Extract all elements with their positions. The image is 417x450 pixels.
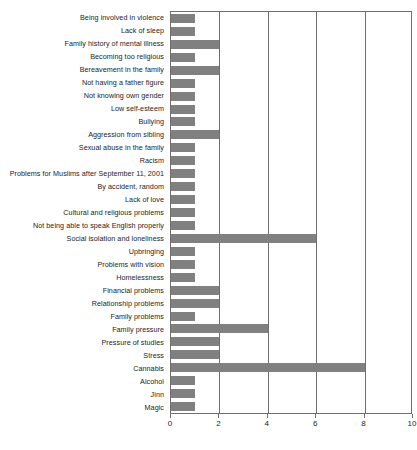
bar-row [171, 116, 411, 129]
bar [171, 299, 219, 308]
plot-area [170, 11, 412, 414]
x-tick-mark [218, 414, 219, 418]
bar-row [171, 25, 411, 38]
category-label: Bullying [0, 115, 167, 128]
bar-row [171, 64, 411, 77]
bar [171, 363, 365, 372]
x-tick-mark [170, 414, 171, 418]
bar [171, 117, 195, 126]
bar-row [171, 206, 411, 219]
category-label: Family pressure [0, 323, 167, 336]
bar [171, 66, 219, 75]
bar-row [171, 348, 411, 361]
category-label: Low self-esteem [0, 102, 167, 115]
x-axis: 0246810 [170, 414, 412, 444]
x-tick-mark [315, 414, 316, 418]
category-label: Aggression from sibling [0, 128, 167, 141]
bar [171, 182, 195, 191]
bar [171, 79, 195, 88]
bar-row [171, 128, 411, 141]
category-label: Becoming too religious [0, 50, 167, 63]
bar-row [171, 323, 411, 336]
bar-row [171, 284, 411, 297]
bar [171, 156, 195, 165]
bar-row [171, 219, 411, 232]
bar-row [171, 167, 411, 180]
x-tick-label: 4 [265, 420, 269, 428]
category-label: Relationship problems [0, 297, 167, 310]
category-label-column: Being involved in violenceLack of sleepF… [0, 11, 167, 414]
bar [171, 105, 195, 114]
x-tick-mark [412, 414, 413, 418]
bar [171, 130, 219, 139]
category-label: Magic [0, 401, 167, 414]
bar-row [171, 51, 411, 64]
x-tick-label: 0 [168, 420, 172, 428]
bar [171, 14, 195, 23]
category-label: By accident, random [0, 180, 167, 193]
bar [171, 143, 195, 152]
category-label: Cannabis [0, 362, 167, 375]
category-label: Not being able to speak English properly [0, 219, 167, 232]
category-label: Alcohol [0, 375, 167, 388]
category-label: Stress [0, 349, 167, 362]
bar-row [171, 271, 411, 284]
category-label: Being involved in violence [0, 11, 167, 24]
bar [171, 169, 195, 178]
category-label: Racism [0, 154, 167, 167]
category-label: Family history of mental illness [0, 37, 167, 50]
bar [171, 234, 316, 243]
bar-row [171, 310, 411, 323]
category-label: Not having a father figure [0, 76, 167, 89]
bar [171, 402, 195, 411]
bar-row [171, 297, 411, 310]
bar-row [171, 335, 411, 348]
bar-row [171, 103, 411, 116]
bar [171, 27, 195, 36]
horizontal-bar-chart: Being involved in violenceLack of sleepF… [0, 0, 417, 450]
bar [171, 260, 195, 269]
category-label: Upbringing [0, 245, 167, 258]
bar [171, 389, 195, 398]
category-label: Homelessness [0, 271, 167, 284]
category-label: Lack of sleep [0, 24, 167, 37]
bar [171, 247, 195, 256]
category-label: Cultural and religious problems [0, 206, 167, 219]
bar [171, 53, 195, 62]
bar [171, 92, 195, 101]
category-label: Family problems [0, 310, 167, 323]
bar [171, 337, 219, 346]
bar [171, 273, 195, 282]
bar-row [171, 12, 411, 25]
bar [171, 312, 195, 321]
x-tick-label: 6 [313, 420, 317, 428]
bar [171, 221, 195, 230]
category-label: Lack of love [0, 193, 167, 206]
bar-row [171, 77, 411, 90]
bar-row [171, 361, 411, 374]
bar [171, 40, 219, 49]
x-tick-label: 10 [408, 420, 417, 428]
bar [171, 208, 195, 217]
bar [171, 324, 268, 333]
category-label: Pressure of studies [0, 336, 167, 349]
bar-row [171, 193, 411, 206]
bar-row [171, 154, 411, 167]
category-label: Bereavement in the family [0, 63, 167, 76]
bar-row [171, 90, 411, 103]
bars-layer [171, 12, 411, 413]
bar [171, 286, 219, 295]
category-label: Social isolation and loneliness [0, 232, 167, 245]
bar [171, 195, 195, 204]
bar-row [171, 180, 411, 193]
x-tick-label: 8 [361, 420, 365, 428]
x-tick-mark [364, 414, 365, 418]
bar-row [171, 38, 411, 51]
x-tick-mark [267, 414, 268, 418]
bar-row [171, 387, 411, 400]
category-label: Problems with vision [0, 258, 167, 271]
category-label: Sexual abuse in the family [0, 141, 167, 154]
bar [171, 350, 219, 359]
bar-row [171, 258, 411, 271]
category-label: Jinn [0, 388, 167, 401]
